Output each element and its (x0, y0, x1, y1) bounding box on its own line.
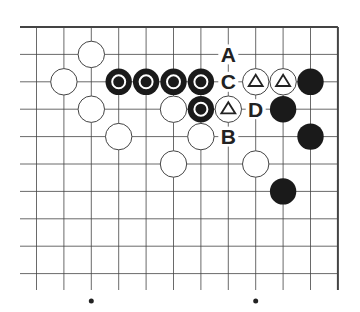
black-stone[interactable] (297, 123, 323, 149)
black-stone[interactable] (133, 69, 159, 95)
black-stone[interactable] (188, 96, 214, 122)
white-stone[interactable] (106, 123, 132, 149)
black-stone[interactable] (160, 69, 186, 95)
point-label-a: A (221, 43, 236, 66)
white-stone[interactable] (270, 69, 296, 95)
white-stone[interactable] (188, 123, 214, 149)
white-stone[interactable] (51, 69, 77, 95)
black-stone[interactable] (188, 69, 214, 95)
black-stone[interactable] (297, 69, 323, 95)
black-stone[interactable] (270, 178, 296, 204)
star-point (253, 299, 258, 304)
white-stone[interactable] (160, 151, 186, 177)
star-point (89, 299, 94, 304)
point-label-c: C (221, 70, 236, 93)
white-stone[interactable] (243, 151, 269, 177)
white-stone[interactable] (243, 69, 269, 95)
white-stone[interactable] (215, 96, 241, 122)
white-stone[interactable] (78, 96, 104, 122)
labels-layer: ACDB (218, 43, 265, 148)
black-stone[interactable] (106, 69, 132, 95)
white-stone[interactable] (160, 96, 186, 122)
star-points (89, 299, 258, 304)
black-stone[interactable] (270, 96, 296, 122)
point-label-d: D (248, 98, 263, 121)
go-board[interactable]: ACDB (0, 0, 360, 312)
point-label-b: B (221, 125, 236, 148)
white-stone[interactable] (78, 41, 104, 67)
